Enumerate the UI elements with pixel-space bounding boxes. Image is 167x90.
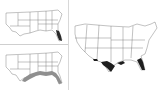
southeast-map-gulf (0, 45, 68, 90)
southeast-map-florida (0, 0, 68, 44)
southeast-map-gulf-panel (0, 45, 68, 90)
us-map-panel (69, 0, 167, 90)
southeast-map-florida-panel (0, 0, 68, 44)
us-map (69, 0, 167, 90)
